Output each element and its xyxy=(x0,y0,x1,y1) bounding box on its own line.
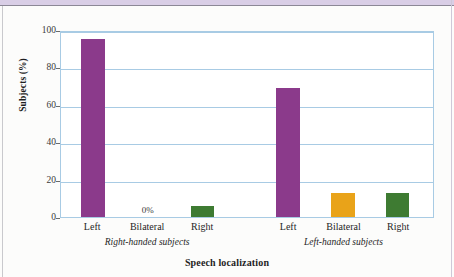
gridline xyxy=(61,182,433,183)
x-axis-tick-label: Left xyxy=(280,221,297,232)
x-axis-group-labels: Right-handed subjectsLeft-handed subject… xyxy=(60,237,434,253)
gridline xyxy=(61,32,433,33)
y-axis-tick-mark xyxy=(56,218,60,219)
x-axis-title: Speech localization xyxy=(0,257,454,268)
gridline xyxy=(61,144,433,145)
y-axis-tick-label: 20 xyxy=(30,176,56,186)
gridline xyxy=(61,69,433,70)
page-right-rule xyxy=(451,0,452,277)
x-axis-tick-label: Left xyxy=(84,221,101,232)
y-axis-tick-label: 0 xyxy=(30,213,56,223)
bar xyxy=(331,193,354,217)
x-axis-group-label: Right-handed subjects xyxy=(105,237,190,247)
x-axis-tick-label: Bilateral xyxy=(130,221,164,232)
x-axis-tick-label: Bilateral xyxy=(326,221,360,232)
y-axis-tick-label: 100 xyxy=(30,26,56,36)
bar-value-label: 0% xyxy=(142,205,154,215)
gridline xyxy=(61,107,433,108)
x-axis-tick-labels: LeftBilateralRightLeftBilateralRight xyxy=(60,221,434,237)
bar xyxy=(191,206,214,217)
x-axis-tick-label: Right xyxy=(191,221,213,232)
x-axis-group-label: Left-handed subjects xyxy=(304,237,383,247)
plot-area: 0% xyxy=(60,31,434,218)
figure-page: Subjects (%) 020406080100 0% LeftBilater… xyxy=(0,0,454,277)
page-top-rule xyxy=(0,5,454,6)
y-axis-tick-label: 80 xyxy=(30,64,56,74)
page-left-rule xyxy=(2,6,3,277)
x-axis-tick-label: Right xyxy=(387,221,409,232)
y-axis-ticks: 020406080100 xyxy=(26,31,56,218)
y-axis-tick-label: 60 xyxy=(30,101,56,111)
bar xyxy=(81,39,104,217)
bar xyxy=(386,193,409,217)
y-axis-tick-label: 40 xyxy=(30,138,56,148)
bar xyxy=(276,88,299,218)
